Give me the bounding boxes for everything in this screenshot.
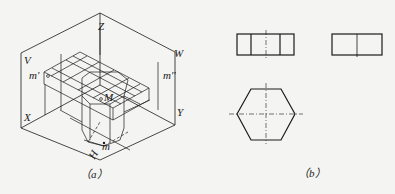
point-M-marker bbox=[100, 98, 103, 101]
caption-a: （a） bbox=[80, 168, 108, 180]
projection-box bbox=[21, 13, 175, 160]
point-m-prime-marker bbox=[47, 75, 50, 78]
side-view bbox=[332, 34, 382, 57]
plane-label-v: V bbox=[24, 54, 32, 66]
point-label-m-prime: m' bbox=[29, 69, 40, 81]
plane-label-w: W bbox=[174, 47, 184, 59]
axis-label-x: X bbox=[23, 111, 32, 123]
point-label-M: M bbox=[103, 91, 114, 103]
top-view-hexagon bbox=[229, 83, 303, 144]
axis-label-z: Z bbox=[98, 20, 105, 32]
hex-prism-projection bbox=[44, 28, 158, 150]
caption-b: （b） bbox=[298, 167, 326, 179]
point-label-m-double-prime: m'' bbox=[163, 69, 176, 81]
diagram-canvas: Z V W X Y H m' m'' M m （a） （b） bbox=[0, 0, 395, 194]
front-view bbox=[237, 30, 294, 59]
axis-label-y: Y bbox=[177, 106, 185, 118]
point-label-m: m bbox=[102, 140, 110, 152]
